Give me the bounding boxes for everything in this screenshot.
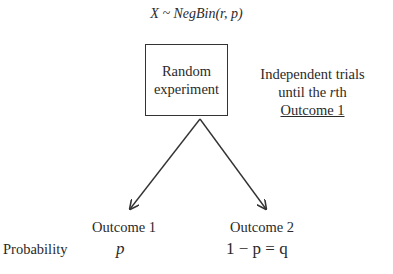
arrow-left (130, 119, 200, 209)
probability-label: Probability (3, 241, 67, 258)
outcome-1-label: Outcome 1 (92, 219, 156, 236)
branch-arrows (0, 0, 393, 274)
outcome-2-label: Outcome 2 (230, 219, 294, 236)
arrow-right (200, 119, 266, 209)
outcome-2-probability: 1 − p = q (226, 239, 288, 259)
outcome-1-probability: p (116, 239, 125, 259)
